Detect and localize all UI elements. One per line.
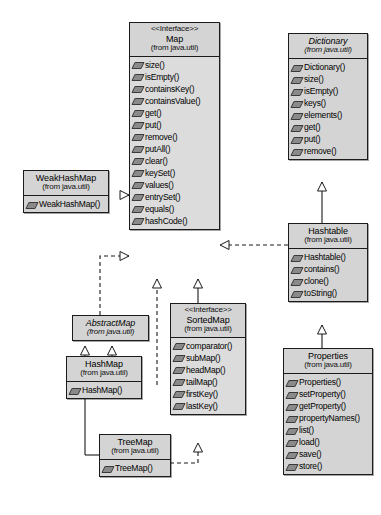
operation-row: keySet(): [133, 167, 217, 179]
operations-list-sortedmap: comparator() subMap() headMap() tailMap(…: [171, 338, 245, 414]
operations-list-treemap: TreeMap(): [100, 460, 170, 476]
operation-row: store(): [287, 460, 370, 472]
operation-row: clear(): [133, 155, 217, 167]
operation-icon: [292, 278, 301, 285]
class-box-abstractmap[interactable]: AbstractMap (from java.util): [72, 315, 149, 341]
class-package: (from java.util): [287, 361, 369, 370]
class-box-properties[interactable]: Properties (from java.util) Properties()…: [283, 348, 373, 475]
operation-icon: [133, 85, 142, 92]
operation-icon: [133, 145, 142, 152]
operation-row: entrySet(): [133, 191, 217, 203]
operation-icon: [133, 133, 142, 140]
operation-row: remove(): [133, 131, 217, 143]
class-header-hashtable: Hashtable (from java.util): [289, 224, 367, 249]
operations-list-map: size() isEmpty() containsKey() containsV…: [130, 57, 219, 229]
operations-list-weakhashmap: WeakHashMap(): [24, 196, 108, 212]
class-box-map[interactable]: <<Interface>> Map (from java.util) size(…: [129, 22, 220, 230]
class-package: (from java.util): [292, 46, 364, 55]
operation-row: clone(): [292, 275, 365, 287]
class-header-abstractmap: AbstractMap (from java.util): [73, 316, 148, 340]
operation-icon: [292, 112, 301, 119]
operation-icon: [133, 157, 142, 164]
operation-row: setProperty(): [287, 388, 370, 400]
operation-icon: [292, 254, 301, 261]
operation-row: containsKey(): [133, 83, 217, 95]
operation-icon: [292, 100, 301, 107]
operation-icon: [133, 193, 142, 200]
operation-row: WeakHashMap(): [27, 198, 106, 210]
class-package: (from java.util): [292, 236, 364, 245]
operation-icon: [133, 217, 142, 224]
class-package: (from java.util): [174, 325, 242, 334]
class-package: (from java.util): [70, 369, 138, 378]
operation-row: list(): [287, 424, 370, 436]
operation-row: hashCode(): [133, 215, 217, 227]
class-package: (from java.util): [76, 328, 145, 337]
class-header-weakhashmap: WeakHashMap (from java.util): [24, 171, 108, 196]
operation-icon: [292, 266, 301, 273]
operation-icon: [287, 379, 296, 386]
class-box-sortedmap[interactable]: <<Interface>> SortedMap (from java.util)…: [170, 303, 246, 415]
class-header-properties: Properties (from java.util): [284, 349, 372, 374]
operation-row: toString(): [292, 287, 365, 299]
class-header-dictionary: Dictionary (from java.util): [289, 34, 367, 59]
operation-icon: [292, 136, 301, 143]
operation-icon: [133, 61, 142, 68]
operation-row: Dictionary(): [292, 61, 365, 73]
operation-icon: [70, 387, 79, 394]
operation-icon: [174, 354, 183, 361]
operation-icon: [133, 169, 142, 176]
class-box-hashmap[interactable]: HashMap (from java.util) HashMap(): [66, 356, 142, 399]
class-package: (from java.util): [27, 183, 105, 192]
edge-abstractmap-realizes-map: [100, 256, 129, 315]
class-header-sortedmap: <<Interface>> SortedMap (from java.util): [171, 304, 245, 338]
operation-icon: [287, 463, 296, 470]
operations-list-hashmap: HashMap(): [67, 382, 141, 398]
operation-icon: [287, 427, 296, 434]
operation-icon: [174, 378, 183, 385]
class-package: (from java.util): [133, 44, 216, 53]
operation-row: elements(): [292, 109, 365, 121]
operation-icon: [292, 290, 301, 297]
operation-icon: [174, 366, 183, 373]
class-box-dictionary[interactable]: Dictionary (from java.util) Dictionary()…: [288, 33, 368, 160]
operation-icon: [133, 205, 142, 212]
operation-row: size(): [133, 59, 217, 71]
operation-row: isEmpty(): [292, 85, 365, 97]
operation-row: putAll(): [133, 143, 217, 155]
operation-icon: [287, 415, 296, 422]
operation-icon: [292, 148, 301, 155]
operation-row: size(): [292, 73, 365, 85]
operation-icon: [174, 342, 183, 349]
operation-row: comparator(): [174, 340, 243, 352]
operation-row: remove(): [292, 145, 365, 157]
operation-row: tailMap(): [174, 376, 243, 388]
operation-row: getProperty(): [287, 400, 370, 412]
operations-list-dictionary: Dictionary() size() isEmpty() keys() ele…: [289, 59, 367, 159]
operation-row: subMap(): [174, 352, 243, 364]
operation-icon: [133, 109, 142, 116]
operation-row: put(): [292, 133, 365, 145]
class-box-weakhashmap[interactable]: WeakHashMap (from java.util) WeakHashMap…: [23, 170, 109, 213]
operation-row: equals(): [133, 203, 217, 215]
operation-row: get(): [292, 121, 365, 133]
operation-icon: [292, 124, 301, 131]
class-stereotype: <<Interface>>: [174, 306, 242, 315]
class-header-hashmap: HashMap (from java.util): [67, 357, 141, 382]
class-package: (from java.util): [103, 447, 167, 456]
operation-row: Hashtable(): [292, 251, 365, 263]
operation-icon: [287, 439, 296, 446]
operation-icon: [174, 390, 183, 397]
operation-row: lastKey(): [174, 400, 243, 412]
class-box-treemap[interactable]: TreeMap (from java.util) TreeMap(): [99, 434, 171, 477]
operation-row: put(): [133, 119, 217, 131]
uml-class-diagram: <<Interface>> Map (from java.util) size(…: [0, 0, 381, 515]
operation-icon: [133, 181, 142, 188]
operation-row: Properties(): [287, 376, 370, 388]
operation-icon: [133, 97, 142, 104]
class-box-hashtable[interactable]: Hashtable (from java.util) Hashtable() c…: [288, 223, 368, 302]
operation-row: headMap(): [174, 364, 243, 376]
operation-row: save(): [287, 448, 370, 460]
class-header-map: <<Interface>> Map (from java.util): [130, 23, 219, 57]
operations-list-hashtable: Hashtable() contains() clone() toString(…: [289, 249, 367, 301]
